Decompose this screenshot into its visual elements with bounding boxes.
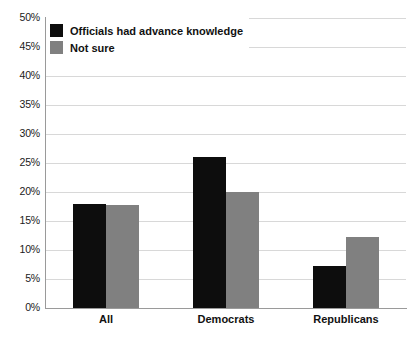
y-axis-tick-label: 20% — [0, 185, 40, 197]
y-axis-tick-label: 15% — [0, 214, 40, 226]
chart-legend: Officials had advance knowledge Not sure — [46, 18, 249, 60]
y-axis-tick-label: 5% — [0, 272, 40, 284]
x-axis-category-label: Democrats — [166, 313, 286, 325]
y-axis-tick-label: 35% — [0, 98, 40, 110]
y-axis-tick-label: 0% — [0, 301, 40, 313]
legend-item-label: Officials had advance knowledge — [70, 25, 243, 37]
legend-swatch-black-icon — [50, 24, 63, 37]
x-axis-category-label: Republicans — [286, 313, 406, 325]
y-axis-tick-labels: 0%5%10%15%20%25%30%35%40%45%50% — [0, 18, 418, 308]
legend-item-label: Not sure — [70, 42, 115, 54]
y-axis-tick-label: 40% — [0, 69, 40, 81]
bar-chart: 0%5%10%15%20%25%30%35%40%45%50% AllDemoc… — [0, 0, 418, 337]
y-axis-tick-label: 45% — [0, 40, 40, 52]
legend-swatch-gray-icon — [50, 41, 63, 54]
legend-item: Officials had advance knowledge — [50, 22, 243, 39]
legend-item: Not sure — [50, 39, 243, 56]
y-axis-tick-label: 25% — [0, 156, 40, 168]
y-axis-tick-label: 10% — [0, 243, 40, 255]
x-axis-line — [45, 308, 407, 309]
y-axis-tick-label: 50% — [0, 11, 40, 23]
x-axis-category-label: All — [46, 313, 166, 325]
y-axis-tick-label: 30% — [0, 127, 40, 139]
